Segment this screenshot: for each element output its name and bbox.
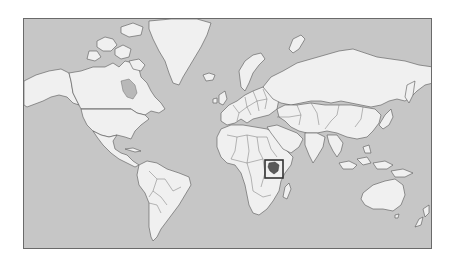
southeast-asia xyxy=(327,135,343,157)
world-map-frame: Kenya xyxy=(23,18,432,249)
scandinavia xyxy=(239,53,265,91)
india xyxy=(305,133,325,163)
novaya-zemlya xyxy=(289,35,305,53)
oceania xyxy=(361,179,429,227)
north-america xyxy=(24,19,215,167)
madagascar xyxy=(283,183,291,199)
world-map xyxy=(24,19,432,249)
australia xyxy=(361,179,405,211)
greenland xyxy=(149,19,211,85)
cuba xyxy=(125,148,141,152)
canada xyxy=(69,61,165,115)
japan xyxy=(379,109,393,129)
canadian-arctic-islands xyxy=(87,23,145,71)
tasmania xyxy=(395,214,399,218)
indonesia-philippines xyxy=(339,145,393,169)
iceland xyxy=(203,73,215,81)
new-guinea xyxy=(391,169,413,177)
south-america xyxy=(137,161,191,241)
uk-ireland xyxy=(213,91,227,105)
new-zealand xyxy=(415,205,429,227)
usa xyxy=(81,109,149,139)
